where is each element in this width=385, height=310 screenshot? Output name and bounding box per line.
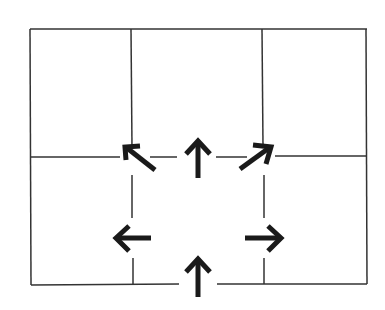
arrow-up-icon [186,141,210,178]
outer-left-line [30,29,31,285]
left-vertical-top [131,29,132,148]
arrow-up-bottom-icon [186,259,210,297]
grid-diagram [0,0,385,310]
arrow-right-icon [245,226,281,251]
arrows [116,141,281,297]
right-vertical-top [262,29,263,146]
arrow-left-icon [116,226,151,251]
outer-bottom-line-left [31,284,179,285]
arrow-up-left-icon [125,146,155,170]
